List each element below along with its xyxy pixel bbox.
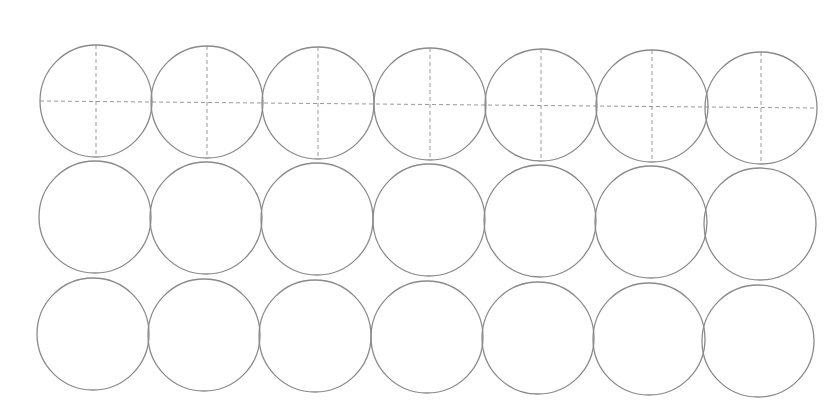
circle-outline (261, 163, 373, 275)
circle-cell (705, 52, 817, 164)
circle-cell (593, 283, 705, 395)
circle-cell (373, 164, 485, 276)
circle-cell (482, 282, 594, 394)
circle-cell (595, 166, 707, 278)
circle-cell (704, 168, 816, 280)
circle-cell (150, 162, 262, 274)
circle-cell (702, 285, 814, 397)
circle-cell (259, 280, 371, 392)
circle-cell (261, 163, 373, 275)
circle-cell (37, 278, 149, 390)
circle-row-3 (37, 278, 814, 397)
circle-worksheet (0, 0, 837, 410)
circle-outline (39, 161, 151, 273)
circle-cell (596, 50, 708, 162)
circle-cell (485, 49, 597, 161)
circle-outline (593, 283, 705, 395)
circle-outline (259, 280, 371, 392)
circle-row-1 (40, 45, 817, 164)
circle-outline (37, 278, 149, 390)
circle-cell (484, 165, 596, 277)
circle-outline (702, 285, 814, 397)
circle-cell (371, 281, 483, 393)
circle-row-2 (39, 161, 816, 280)
circle-grid-canvas (0, 0, 837, 410)
circle-outline (595, 166, 707, 278)
circle-outline (371, 281, 483, 393)
horizontal-guide-line (40, 101, 817, 108)
circle-outline (373, 164, 485, 276)
circle-outline (704, 168, 816, 280)
circle-cell (39, 161, 151, 273)
circle-outline (148, 279, 260, 391)
circle-outline (482, 282, 594, 394)
circle-cell (148, 279, 260, 391)
circle-outline (484, 165, 596, 277)
circle-outline (150, 162, 262, 274)
